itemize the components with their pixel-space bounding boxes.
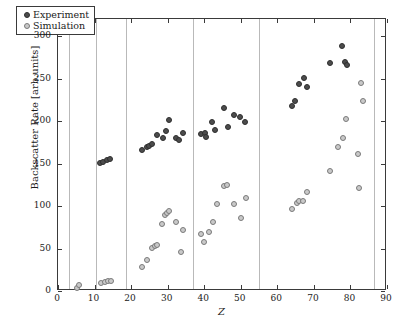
experiment-marker-icon — [21, 9, 33, 20]
data-point-experiment-11 — [166, 117, 172, 123]
x-tick-label-30: 30 — [161, 293, 172, 303]
gridline-vertical-0 — [69, 19, 70, 289]
data-point-experiment-17 — [203, 134, 209, 140]
data-point-simulation-25 — [231, 201, 237, 207]
data-point-simulation-33 — [327, 168, 333, 174]
y-tick-right-100 — [381, 206, 385, 207]
data-point-experiment-10 — [163, 128, 169, 134]
y-tick-right-300 — [381, 36, 385, 37]
data-point-simulation-38 — [358, 80, 364, 86]
x-tick-label-10: 10 — [88, 293, 99, 303]
x-tick-label-60: 60 — [271, 293, 282, 303]
x-tick-bottom-80 — [350, 285, 351, 289]
gridline-vertical-4 — [259, 19, 260, 289]
plot-area — [57, 18, 386, 290]
x-tick-bottom-0 — [58, 285, 59, 289]
data-point-experiment-21 — [225, 124, 231, 130]
x-tick-label-50: 50 — [234, 293, 245, 303]
x-tick-label-70: 70 — [307, 293, 318, 303]
x-tick-bottom-40 — [204, 285, 205, 289]
y-tick-label-250: 250 — [0, 73, 51, 83]
data-point-simulation-18 — [198, 231, 204, 237]
x-tick-label-90: 90 — [380, 293, 391, 303]
data-point-simulation-40 — [355, 151, 361, 157]
data-point-simulation-20 — [206, 229, 212, 235]
x-tick-bottom-60 — [277, 285, 278, 289]
data-point-simulation-17 — [180, 227, 186, 233]
gridline-vertical-2 — [126, 19, 127, 289]
gridline-vertical-5 — [374, 19, 375, 289]
data-point-simulation-7 — [144, 257, 150, 263]
data-point-simulation-16 — [178, 249, 184, 255]
y-tick-left-0 — [58, 291, 62, 292]
y-tick-right-250 — [381, 79, 385, 80]
data-point-experiment-33 — [344, 62, 350, 68]
x-tick-bottom-30 — [168, 285, 169, 289]
y-tick-label-100: 100 — [0, 200, 51, 210]
y-tick-left-200 — [58, 121, 62, 122]
x-tick-top-30 — [168, 19, 169, 23]
data-point-simulation-39 — [360, 98, 366, 104]
x-axis-label: Z — [57, 306, 386, 317]
data-point-simulation-32 — [304, 189, 310, 195]
x-tick-top-50 — [241, 19, 242, 23]
data-point-simulation-15 — [173, 219, 179, 225]
y-tick-label-300: 300 — [0, 30, 51, 40]
x-tick-label-40: 40 — [197, 293, 208, 303]
data-point-experiment-13 — [176, 137, 182, 143]
x-tick-top-20 — [131, 19, 132, 23]
gridline-vertical-3 — [193, 19, 194, 289]
legend-label-experiment: Experiment — [33, 9, 89, 20]
data-point-experiment-20 — [221, 105, 227, 111]
y-tick-right-150 — [381, 164, 385, 165]
y-tick-left-100 — [58, 206, 62, 207]
y-tick-left-150 — [58, 164, 62, 165]
data-point-simulation-35 — [340, 135, 346, 141]
y-tick-label-50: 50 — [0, 243, 51, 253]
data-point-simulation-14 — [166, 208, 172, 214]
data-point-experiment-7 — [149, 141, 155, 147]
data-point-experiment-29 — [304, 84, 310, 90]
x-tick-label-80: 80 — [344, 293, 355, 303]
data-point-simulation-5 — [108, 278, 114, 284]
legend-item-experiment: Experiment — [21, 9, 89, 20]
x-tick-top-40 — [204, 19, 205, 23]
y-tick-label-150: 150 — [0, 158, 51, 168]
data-point-experiment-30 — [327, 60, 333, 66]
data-point-experiment-9 — [160, 135, 166, 141]
x-tick-bottom-50 — [241, 285, 242, 289]
x-tick-label-20: 20 — [124, 293, 135, 303]
y-tick-left-250 — [58, 79, 62, 80]
data-point-simulation-10 — [154, 242, 160, 248]
data-point-simulation-22 — [214, 201, 220, 207]
data-point-experiment-3 — [107, 156, 113, 162]
gridline-vertical-1 — [96, 19, 97, 289]
data-point-simulation-37 — [356, 185, 362, 191]
y-tick-right-0 — [381, 291, 385, 292]
y-tick-left-300 — [58, 36, 62, 37]
y-tick-left-50 — [58, 249, 62, 250]
data-point-experiment-24 — [242, 119, 248, 125]
data-point-simulation-1 — [76, 282, 82, 288]
y-tick-label-200: 200 — [0, 115, 51, 125]
data-point-simulation-11 — [159, 221, 165, 227]
data-point-simulation-34 — [335, 144, 341, 150]
data-point-experiment-14 — [180, 130, 186, 136]
data-point-simulation-21 — [210, 219, 216, 225]
data-point-experiment-27 — [296, 81, 302, 87]
x-tick-label-0: 0 — [54, 293, 60, 303]
x-tick-bottom-10 — [95, 285, 96, 289]
data-point-simulation-27 — [243, 195, 249, 201]
y-tick-right-200 — [381, 121, 385, 122]
x-tick-bottom-20 — [131, 285, 132, 289]
y-tick-right-50 — [381, 249, 385, 250]
backscatter-rate-scatter-figure: Z Backscatter Rate [arb.units] Experimen… — [0, 0, 407, 327]
data-point-experiment-18 — [209, 119, 215, 125]
data-point-experiment-31 — [339, 43, 345, 49]
data-point-simulation-31 — [300, 198, 306, 204]
data-point-simulation-28 — [289, 206, 295, 212]
x-tick-bottom-70 — [314, 285, 315, 289]
y-tick-label-0: 0 — [0, 285, 51, 295]
data-point-simulation-24 — [224, 182, 230, 188]
data-point-experiment-28 — [301, 75, 307, 81]
